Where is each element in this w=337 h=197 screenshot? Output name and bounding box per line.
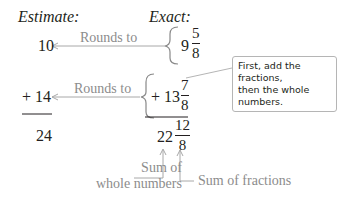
exact-total-fraction: 12 8 xyxy=(175,118,190,153)
rounds-to-label-1: Rounds to xyxy=(80,30,137,46)
estimate-header: Estimate: xyxy=(18,8,79,26)
exact-fraction-2: 7 8 xyxy=(181,78,189,113)
exact-header: Exact: xyxy=(149,8,191,26)
callout-line-1: First, add the fractions, xyxy=(238,60,331,84)
callout-box: First, add the fractions, then the whole… xyxy=(232,56,337,112)
estimate-value-1: 10 xyxy=(38,37,54,55)
sum-whole-line-1: Sum of xyxy=(96,160,182,176)
denominator: 8 xyxy=(192,46,200,61)
denominator: 8 xyxy=(179,138,187,153)
denominator: 8 xyxy=(181,98,189,113)
exact-total-whole: 22 xyxy=(157,128,173,146)
numerator: 12 xyxy=(175,118,190,133)
rounds-to-label-2: Rounds to xyxy=(74,81,131,97)
numerator: 5 xyxy=(192,26,200,41)
fraction-bar xyxy=(175,135,190,136)
exact-whole-1: 9 xyxy=(181,37,189,55)
estimate-value-2: + 14 xyxy=(22,88,51,106)
sum-fractions-annotation: Sum of fractions xyxy=(198,173,291,189)
sum-whole-annotation: Sum of whole numbers xyxy=(96,160,182,192)
fraction-bar xyxy=(192,43,200,44)
exact-fraction-1: 5 8 xyxy=(192,26,200,61)
callout-line-2: then the whole numbers. xyxy=(238,84,331,108)
fraction-bar xyxy=(181,95,189,96)
numerator: 7 xyxy=(181,78,189,93)
sum-whole-line-2: whole numbers xyxy=(96,176,182,192)
exact-whole-2: + 13 xyxy=(151,88,180,106)
estimate-total: 24 xyxy=(36,127,52,145)
